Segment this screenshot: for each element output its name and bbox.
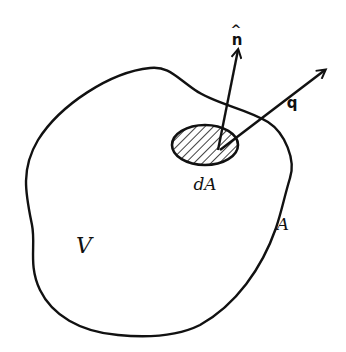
- control-volume-diagram: ^ n q dA A V: [0, 0, 346, 352]
- surface-label: A: [275, 214, 289, 234]
- flux-vector-label: q: [287, 94, 298, 112]
- volume-label: V: [76, 233, 94, 258]
- volume-boundary: [26, 68, 292, 337]
- area-element-label: dA: [193, 174, 216, 194]
- flux-vector-arrow: [220, 70, 325, 150]
- normal-vector-label: n: [232, 31, 243, 49]
